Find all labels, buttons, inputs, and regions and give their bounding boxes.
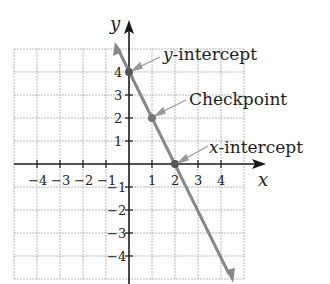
x-intercept-var: x xyxy=(209,137,219,157)
y-tick-label: 2 xyxy=(114,111,122,126)
y-axis-label: y xyxy=(109,13,121,34)
line-arrow-down-icon xyxy=(226,268,235,283)
x-tick-label: −2 xyxy=(74,173,93,188)
y-tick-label: −1 xyxy=(107,180,126,195)
x-tick-label: −4 xyxy=(28,173,47,188)
y-intercept-annotation: y-intercept xyxy=(162,44,257,64)
checkpoint-annotation: Checkpoint xyxy=(189,89,287,109)
x-axis-label: x xyxy=(258,169,268,190)
x-intercept-text: -intercept xyxy=(219,137,304,157)
y-intercept-text: -intercept xyxy=(173,44,258,64)
y-tick-label: −3 xyxy=(107,226,126,241)
x-tick-label: 2 xyxy=(171,173,179,188)
y-intercept-point xyxy=(125,68,133,76)
y-intercept-var: y xyxy=(162,44,173,64)
x-intercept-point xyxy=(171,160,179,168)
x-tick-label: 3 xyxy=(194,173,202,188)
coordinate-graph: −4 −3 −2 −1 1 2 3 4 4 3 2 1 −1 −2 −3 −4 … xyxy=(0,0,330,284)
checkpoint-point xyxy=(148,114,156,122)
annotation-pointers xyxy=(132,57,208,163)
x-intercept-annotation: x-intercept xyxy=(209,137,303,157)
x-tick-label: 1 xyxy=(148,173,156,188)
y-tick-label: 1 xyxy=(114,134,122,149)
x-tick-labels: −4 −3 −2 −1 1 2 3 4 xyxy=(28,173,225,188)
y-tick-label: −2 xyxy=(107,203,126,218)
y-tick-label: 4 xyxy=(114,65,122,80)
y-tick-label: −4 xyxy=(107,249,126,264)
x-tick-label: 4 xyxy=(217,173,225,188)
x-tick-label: −3 xyxy=(51,173,70,188)
y-tick-label: 3 xyxy=(114,88,122,103)
